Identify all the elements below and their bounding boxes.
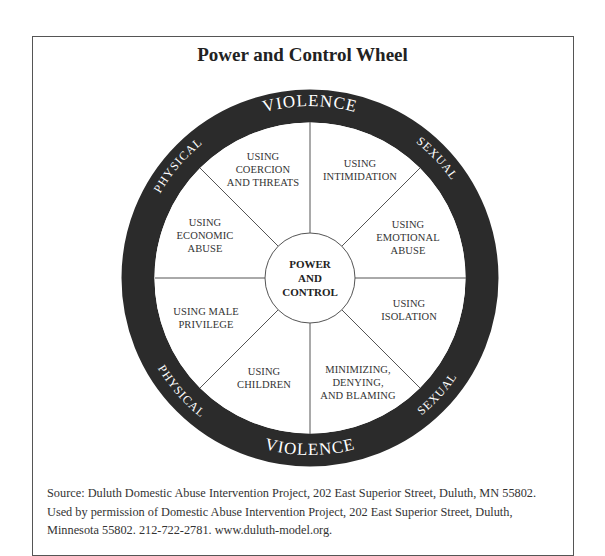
svg-text:CHILDREN: CHILDREN xyxy=(237,379,291,390)
svg-text:USING: USING xyxy=(392,219,425,230)
source-citation: Source: Duluth Domestic Abuse Interventi… xyxy=(47,484,587,540)
svg-text:INTIMIDATION: INTIMIDATION xyxy=(323,171,397,182)
svg-text:USING: USING xyxy=(393,298,426,309)
svg-text:EMOTIONAL: EMOTIONAL xyxy=(376,232,439,243)
source-line-3: Minnesota 55802. 212-722-2781. www.dulut… xyxy=(47,521,587,540)
svg-text:ABUSE: ABUSE xyxy=(391,245,426,256)
svg-text:ABUSE: ABUSE xyxy=(188,243,223,254)
svg-text:DENYING,: DENYING, xyxy=(332,377,383,388)
center-label-line3: CONTROL xyxy=(282,286,338,298)
svg-text:USING: USING xyxy=(248,366,281,377)
source-line-1: Source: Duluth Domestic Abuse Interventi… xyxy=(47,484,587,503)
svg-text:ECONOMIC: ECONOMIC xyxy=(177,230,234,241)
center-label-line2: AND xyxy=(298,272,322,284)
svg-text:USING MALE: USING MALE xyxy=(173,306,238,317)
svg-text:COERCION: COERCION xyxy=(236,164,291,175)
source-line-2: Used by permission of Domestic Abuse Int… xyxy=(47,503,587,522)
svg-text:AND THREATS: AND THREATS xyxy=(227,177,299,188)
svg-text:USING: USING xyxy=(344,158,377,169)
svg-text:USING: USING xyxy=(189,217,222,228)
svg-text:PRIVILEGE: PRIVILEGE xyxy=(178,319,233,330)
svg-text:MINIMIZING,: MINIMIZING, xyxy=(325,364,391,375)
center-label-line1: POWER xyxy=(289,258,332,270)
svg-text:AND BLAMING: AND BLAMING xyxy=(320,390,396,401)
svg-text:USING: USING xyxy=(247,151,280,162)
svg-text:ISOLATION: ISOLATION xyxy=(381,311,437,322)
